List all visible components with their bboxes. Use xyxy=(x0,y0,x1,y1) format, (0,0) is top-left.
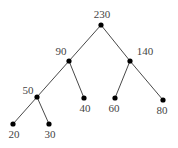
node-label-90: 90 xyxy=(56,45,68,57)
tree-node-230 xyxy=(98,22,103,27)
tree-node-140 xyxy=(127,58,132,63)
node-label-60: 60 xyxy=(109,102,121,114)
node-label-80: 80 xyxy=(157,104,169,116)
node-label-20: 20 xyxy=(9,128,21,140)
tree-edge-50-20 xyxy=(13,97,37,124)
tree-diagram-svg: 23090140504060802030 xyxy=(0,0,178,148)
tree-edge-140-60 xyxy=(115,61,130,98)
tree-diagram: 23090140504060802030 xyxy=(0,0,178,148)
tree-node-40 xyxy=(81,95,86,100)
node-label-50: 50 xyxy=(23,84,35,96)
tree-node-80 xyxy=(160,97,165,102)
tree-labels: 23090140504060802030 xyxy=(9,8,169,140)
node-label-30: 30 xyxy=(45,128,57,140)
tree-node-90 xyxy=(66,58,71,63)
tree-edge-230-90 xyxy=(69,25,101,61)
tree-node-20 xyxy=(10,121,15,126)
tree-edge-90-50 xyxy=(37,61,69,97)
tree-edge-140-80 xyxy=(130,61,163,100)
tree-node-50 xyxy=(34,94,39,99)
node-label-140: 140 xyxy=(137,45,154,57)
node-label-230: 230 xyxy=(94,8,111,20)
tree-node-30 xyxy=(46,121,51,126)
tree-edge-50-30 xyxy=(37,97,49,124)
tree-edge-230-140 xyxy=(101,25,130,61)
tree-edge-90-40 xyxy=(69,61,84,98)
node-label-40: 40 xyxy=(80,102,92,114)
tree-node-60 xyxy=(112,95,117,100)
